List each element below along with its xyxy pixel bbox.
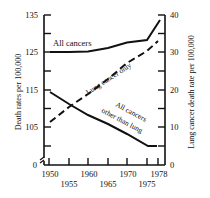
x-tick-label: 1950 <box>42 169 59 179</box>
right-axis-title: Lung cancer death rate per 100,000 <box>187 35 196 148</box>
x-tick-label: 1975 <box>139 179 156 189</box>
y2-tick-label: 20 <box>170 85 179 95</box>
x-tick-label: 1965 <box>100 179 117 189</box>
y2-tick-label: 0 <box>170 160 174 170</box>
x-tick-label: 1955 <box>61 179 78 189</box>
y-tick-label: 125 <box>25 47 38 57</box>
left-axis-title: Death rates per 100,000 <box>14 54 23 130</box>
label-all-cancers: All cancers <box>53 38 91 48</box>
x-tick-label: 1978 <box>151 169 168 179</box>
y-tick-label: 105 <box>25 122 38 132</box>
x-tick-label: 1970 <box>120 169 137 179</box>
label-lung-cancer-only: Lung cancer only <box>84 60 133 96</box>
y2-tick-label: 30 <box>170 47 179 57</box>
x-axis: 1950 1955 1960 1965 1970 1975 1978 <box>42 158 168 189</box>
x-tick-label: 1960 <box>81 169 98 179</box>
y2-tick-label: 10 <box>170 122 179 132</box>
y-tick-label: 0 <box>33 160 37 170</box>
cancer-death-rate-chart: 135 125 115 105 0 Death rates per 100,00… <box>0 0 210 198</box>
right-y-axis: 40 30 20 10 0 Lung cancer death rate per… <box>158 10 196 170</box>
left-y-axis: 135 125 115 105 0 Death rates per 100,00… <box>14 10 51 170</box>
y-tick-label: 135 <box>25 10 38 20</box>
y-tick-label: 115 <box>26 85 38 95</box>
y2-tick-label: 40 <box>170 10 179 20</box>
